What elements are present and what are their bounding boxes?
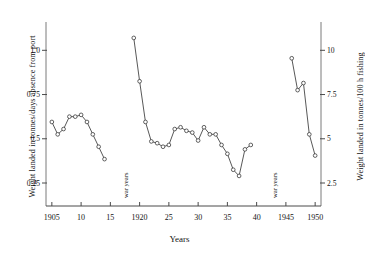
data-point <box>132 36 136 40</box>
data-point <box>202 125 206 129</box>
data-point <box>196 139 200 143</box>
data-point <box>185 129 189 133</box>
data-point <box>97 145 101 149</box>
data-point <box>208 133 212 137</box>
x-tick-label: 10 <box>77 213 85 222</box>
x-tick-label: 1920 <box>132 213 148 222</box>
data-point <box>243 148 247 152</box>
data-point <box>91 133 95 137</box>
x-tick-label: 35 <box>223 213 231 222</box>
y-tick-label-left: 0.75 <box>27 90 40 99</box>
y-tick-label-right: 5 <box>327 134 331 143</box>
data-point <box>79 113 83 117</box>
data-point <box>307 133 311 137</box>
data-point <box>249 143 253 147</box>
data-point <box>68 115 72 119</box>
data-point <box>85 120 89 124</box>
data-point <box>296 88 300 92</box>
x-tick-label: 40 <box>253 213 261 222</box>
series-line-interwar <box>134 38 251 176</box>
series-line-pre-WWI <box>52 115 105 159</box>
data-point <box>155 141 159 145</box>
y-tick-label-left: 0.5 <box>31 134 41 143</box>
data-point <box>190 131 194 135</box>
data-point <box>220 143 224 147</box>
data-point <box>302 81 306 85</box>
data-point <box>231 168 235 172</box>
y-tick-label-left: 1.0 <box>31 46 41 55</box>
data-point <box>56 133 60 137</box>
x-tick-label: 1945 <box>278 213 294 222</box>
annotation-war-years-2: war years <box>271 173 278 198</box>
x-tick-label: 25 <box>165 213 173 222</box>
data-point <box>179 125 183 129</box>
data-point <box>290 56 294 60</box>
data-point <box>149 140 153 144</box>
data-point <box>173 127 177 131</box>
data-point <box>161 145 165 149</box>
data-point <box>237 174 241 178</box>
x-tick-label: 30 <box>194 213 202 222</box>
y-tick-label-right: 2.5 <box>327 179 337 188</box>
data-point <box>62 127 66 131</box>
annotation-war-years-1: war years <box>122 173 129 198</box>
data-point <box>144 120 148 124</box>
y-tick-label-right: 7.5 <box>327 90 337 99</box>
x-tick-label: 1950 <box>307 213 323 222</box>
data-point <box>73 115 77 119</box>
data-point <box>50 120 54 124</box>
x-tick-label: 1905 <box>44 213 60 222</box>
series-line-post-WWII <box>292 58 315 155</box>
data-point <box>103 157 107 161</box>
y-tick-label-left: 0.25 <box>27 179 40 188</box>
y-tick-label-right: 10 <box>327 46 335 55</box>
x-tick-label: 15 <box>106 213 114 222</box>
data-point <box>167 143 171 147</box>
data-point <box>214 133 218 137</box>
data-point <box>313 154 317 158</box>
data-point <box>138 79 142 83</box>
data-point <box>226 152 230 156</box>
